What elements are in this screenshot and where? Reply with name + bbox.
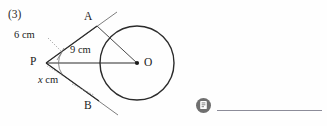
measurement-label-pb: x cm [38,75,58,86]
answer-blank-line[interactable] [217,110,322,111]
leader-line-pa-label [48,38,62,52]
leader-line-pb-label [72,84,94,95]
measurement-label-pa: 6 cm [14,30,35,41]
problem-number: (3) [8,9,21,21]
note-icon[interactable] [196,98,211,113]
point-label-o: O [144,57,152,69]
worksheet-page: (3) A B P O 6 cm 9 cm x cm [0,0,327,126]
point-label-b: B [84,100,92,112]
measurement-pb-unit: cm [43,74,58,85]
center-point-dot [135,61,139,65]
point-label-a: A [84,11,92,23]
answer-entry-row[interactable] [196,93,322,117]
measurement-label-radius: 9 cm [70,45,91,56]
point-label-p: P [30,56,36,68]
note-icon-glyph [199,100,208,110]
